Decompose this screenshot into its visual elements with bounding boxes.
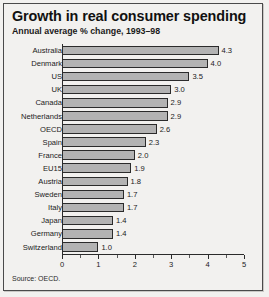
bar xyxy=(62,111,168,121)
category-label: Netherlands xyxy=(0,110,62,123)
x-axis-tick xyxy=(62,255,63,259)
x-axis-tick-label: 4 xyxy=(205,260,209,269)
bar xyxy=(62,150,135,160)
x-axis-minor-tick xyxy=(189,255,190,258)
category-label: Denmark xyxy=(0,57,62,70)
x-axis-minor-tick xyxy=(226,255,227,258)
x-axis-tick xyxy=(244,255,245,259)
bar xyxy=(62,46,219,56)
bar xyxy=(62,85,171,95)
bar xyxy=(62,72,189,82)
bar xyxy=(62,163,131,173)
bar-value-label: 3.0 xyxy=(174,83,185,96)
bar-value-label: 2.0 xyxy=(138,149,149,162)
x-axis-tick-label: 3 xyxy=(169,260,173,269)
bar-row: Denmark4.0 xyxy=(0,57,269,70)
bar-value-label: 3.5 xyxy=(192,70,203,83)
category-label: UK xyxy=(0,83,62,96)
category-label: Switzerland xyxy=(0,241,62,254)
x-axis-minor-tick xyxy=(117,255,118,258)
category-label: Spain xyxy=(0,136,62,149)
bar-row: OECD2.6 xyxy=(0,123,269,136)
bar-row: Netherlands2.9 xyxy=(0,110,269,123)
x-axis-tick xyxy=(171,255,172,259)
bar-row: Japan1.4 xyxy=(0,214,269,227)
bar xyxy=(62,124,157,134)
bar-row: Australia4.3 xyxy=(0,44,269,57)
bar xyxy=(62,229,113,239)
bar-row: Germany1.4 xyxy=(0,227,269,240)
bar-value-label: 4.3 xyxy=(222,44,233,57)
bar-value-label: 1.9 xyxy=(134,162,145,175)
bar xyxy=(62,137,146,147)
bar-row: Canada2.9 xyxy=(0,96,269,109)
chart-figure: Growth in real consumer spending Annual … xyxy=(0,0,269,297)
bar xyxy=(62,59,208,69)
x-axis-tick xyxy=(208,255,209,259)
bar-value-label: 2.3 xyxy=(149,136,160,149)
bar xyxy=(62,216,113,226)
x-axis-minor-tick xyxy=(80,255,81,258)
x-axis-minor-tick xyxy=(153,255,154,258)
bar-row: EU151.9 xyxy=(0,162,269,175)
bar-row: Switzerland1.0 xyxy=(0,241,269,254)
category-label: Australia xyxy=(0,44,62,57)
x-axis-tick xyxy=(135,255,136,259)
bar-value-label: 1.8 xyxy=(131,175,142,188)
bar-row: Sweden1.7 xyxy=(0,188,269,201)
bar-row: UK3.0 xyxy=(0,83,269,96)
bar-value-label: 2.6 xyxy=(160,123,171,136)
bar-row: Italy1.7 xyxy=(0,201,269,214)
bar-value-label: 1.7 xyxy=(127,188,138,201)
category-label: Italy xyxy=(0,201,62,214)
bar-row: Spain2.3 xyxy=(0,136,269,149)
x-axis-tick-label: 5 xyxy=(242,260,246,269)
bar-value-label: 2.9 xyxy=(171,110,182,123)
category-label: France xyxy=(0,149,62,162)
bar-value-label: 1.4 xyxy=(116,214,127,227)
category-label: Austria xyxy=(0,175,62,188)
category-label: Japan xyxy=(0,214,62,227)
chart-source: Source: OECD. xyxy=(12,275,60,282)
bar xyxy=(62,177,128,187)
plot-area: Australia4.3Denmark4.0US3.5UK3.0Canada2.… xyxy=(0,0,269,297)
bar xyxy=(62,203,124,213)
bar-value-label: 2.9 xyxy=(171,96,182,109)
x-axis-tick-label: 1 xyxy=(96,260,100,269)
bar xyxy=(62,242,98,252)
bar xyxy=(62,190,124,200)
bar-row: Austria1.8 xyxy=(0,175,269,188)
category-label: Germany xyxy=(0,227,62,240)
category-label: Canada xyxy=(0,96,62,109)
bar-row: France2.0 xyxy=(0,149,269,162)
x-axis-tick-label: 2 xyxy=(133,260,137,269)
category-label: US xyxy=(0,70,62,83)
category-label: OECD xyxy=(0,123,62,136)
bar-row: US3.5 xyxy=(0,70,269,83)
bar-value-label: 1.7 xyxy=(127,201,138,214)
bar-value-label: 4.0 xyxy=(211,57,222,70)
x-axis-tick xyxy=(98,255,99,259)
bar xyxy=(62,98,168,108)
bar-value-label: 1.4 xyxy=(116,227,127,240)
category-label: EU15 xyxy=(0,162,62,175)
bar-value-label: 1.0 xyxy=(101,241,112,254)
x-axis-tick-label: 0 xyxy=(60,260,64,269)
category-label: Sweden xyxy=(0,188,62,201)
